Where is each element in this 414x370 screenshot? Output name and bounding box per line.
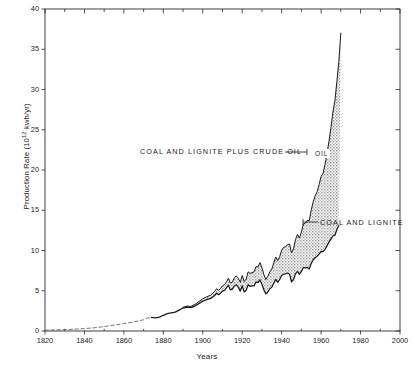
axis-tick-marks: [42, 9, 401, 335]
x-tick-label-1960: 1960: [306, 336, 336, 345]
x-tick-label-1900: 1900: [188, 336, 218, 345]
x-axis-title: Years: [0, 352, 414, 361]
y-tick-label-35: 35: [17, 44, 39, 53]
x-tick-label-1940: 1940: [267, 336, 297, 345]
x-tick-label-1820: 1820: [30, 336, 60, 345]
y-tick-label-10: 10: [17, 246, 39, 255]
x-tick-label-1980: 1980: [346, 336, 376, 345]
y-tick-label-20: 20: [17, 165, 39, 174]
x-tick-label-1860: 1860: [109, 336, 139, 345]
oil-band-label: OIL: [313, 149, 330, 158]
y-tick-label-0: 0: [17, 326, 39, 335]
y-tick-label-30: 30: [17, 85, 39, 94]
y-tick-label-15: 15: [17, 205, 39, 214]
total-curve-label: COAL AND LIGNITE PLUS CRUDE OIL: [140, 147, 302, 156]
y-tick-label-25: 25: [17, 125, 39, 134]
x-tick-label-1880: 1880: [148, 336, 178, 345]
x-tick-label-1920: 1920: [227, 336, 257, 345]
plot-frame: [45, 9, 400, 331]
production-rate-chart: Production Rate (1012 kwh/yr) Years 0510…: [0, 0, 414, 370]
chart-canvas: [0, 0, 414, 370]
coal-curve-label: COAL AND LIGNITE: [320, 218, 404, 227]
x-tick-label-1840: 1840: [69, 336, 99, 345]
x-tick-label-2000: 2000: [385, 336, 414, 345]
series-curves: [45, 33, 341, 330]
y-tick-label-5: 5: [17, 286, 39, 295]
y-tick-label-40: 40: [17, 4, 39, 13]
